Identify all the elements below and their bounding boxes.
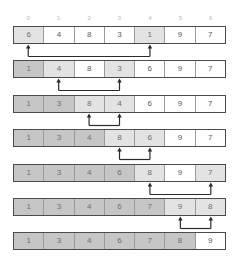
- array-cell-4[interactable]: 7: [135, 233, 165, 249]
- array-row: 1346897: [13, 164, 226, 182]
- swap-arrows: [13, 182, 226, 198]
- array-cell-1[interactable]: 3: [44, 165, 74, 181]
- sort-step-6: 1346798: [13, 198, 226, 216]
- sort-step-3: 1384697: [13, 95, 226, 113]
- array-cell-1[interactable]: 4: [44, 27, 74, 43]
- array-cell-4[interactable]: 6: [135, 61, 165, 77]
- array-cell-4[interactable]: 1: [135, 27, 165, 43]
- array-cell-3[interactable]: 4: [105, 96, 135, 112]
- array-cell-0[interactable]: 1: [14, 199, 44, 215]
- array-cell-5[interactable]: 9: [165, 61, 195, 77]
- array-cell-4[interactable]: 8: [135, 165, 165, 181]
- array-cell-3[interactable]: 3: [105, 27, 135, 43]
- array-cell-5[interactable]: 9: [165, 165, 195, 181]
- sort-step-4: 1348697: [13, 129, 226, 147]
- array-cell-0[interactable]: 1: [14, 165, 44, 181]
- array-row: 1348697: [13, 129, 226, 147]
- array-cell-2[interactable]: 4: [75, 165, 105, 181]
- array-row: 1483697: [13, 60, 226, 78]
- array-cell-5[interactable]: 9: [165, 96, 195, 112]
- swap-arrows: [13, 44, 226, 60]
- index-label-4: 4: [135, 13, 165, 23]
- array-cell-5[interactable]: 8: [165, 233, 195, 249]
- array-cell-3[interactable]: 6: [105, 165, 135, 181]
- index-label-5: 5: [165, 13, 195, 23]
- sort-step-2: 1483697: [13, 60, 226, 78]
- array-cell-4[interactable]: 6: [135, 96, 165, 112]
- array-cell-1[interactable]: 3: [44, 233, 74, 249]
- array-row: 1384697: [13, 95, 226, 113]
- array-cell-0[interactable]: 1: [14, 61, 44, 77]
- array-cell-6[interactable]: 8: [196, 199, 225, 215]
- array-row: 1346789: [13, 232, 226, 250]
- selection-sort-diagram: 0123456 64831971483697138469713486971346…: [0, 0, 238, 270]
- array-cell-1[interactable]: 3: [44, 199, 74, 215]
- array-cell-6[interactable]: 7: [196, 61, 225, 77]
- array-cell-4[interactable]: 7: [135, 199, 165, 215]
- swap-arrows: [13, 147, 226, 163]
- array-cell-0[interactable]: 1: [14, 96, 44, 112]
- sort-step-7: 1346789: [13, 232, 226, 250]
- index-label-2: 2: [74, 13, 104, 23]
- index-label-3: 3: [104, 13, 134, 23]
- array-cell-1[interactable]: 4: [44, 61, 74, 77]
- array-cell-6[interactable]: 7: [196, 130, 225, 146]
- array-cell-6[interactable]: 7: [196, 96, 225, 112]
- array-row: 1346798: [13, 198, 226, 216]
- array-cell-2[interactable]: 8: [75, 27, 105, 43]
- array-cell-2[interactable]: 4: [75, 130, 105, 146]
- sort-step-1: 6483197: [13, 26, 226, 44]
- array-cell-6[interactable]: 9: [196, 233, 225, 249]
- array-cell-4[interactable]: 6: [135, 130, 165, 146]
- index-label-0: 0: [13, 13, 43, 23]
- array-cell-6[interactable]: 7: [196, 27, 225, 43]
- array-cell-1[interactable]: 3: [44, 130, 74, 146]
- index-header-row: 0123456: [13, 13, 226, 23]
- array-cell-5[interactable]: 9: [165, 27, 195, 43]
- array-row: 6483197: [13, 26, 226, 44]
- array-cell-3[interactable]: 6: [105, 199, 135, 215]
- array-cell-5[interactable]: 9: [165, 130, 195, 146]
- array-cell-2[interactable]: 4: [75, 233, 105, 249]
- array-cell-0[interactable]: 1: [14, 233, 44, 249]
- swap-arrows: [13, 78, 226, 94]
- array-cell-3[interactable]: 3: [105, 61, 135, 77]
- index-label-6: 6: [196, 13, 226, 23]
- array-cell-3[interactable]: 6: [105, 233, 135, 249]
- array-cell-2[interactable]: 4: [75, 199, 105, 215]
- array-cell-2[interactable]: 8: [75, 61, 105, 77]
- swap-arrows: [13, 216, 226, 232]
- array-cell-1[interactable]: 3: [44, 96, 74, 112]
- array-cell-0[interactable]: 1: [14, 130, 44, 146]
- index-label-1: 1: [43, 13, 73, 23]
- array-cell-0[interactable]: 6: [14, 27, 44, 43]
- sort-step-5: 1346897: [13, 164, 226, 182]
- array-cell-2[interactable]: 8: [75, 96, 105, 112]
- swap-arrows: [13, 113, 226, 129]
- array-cell-3[interactable]: 8: [105, 130, 135, 146]
- array-cell-6[interactable]: 7: [196, 165, 225, 181]
- array-cell-5[interactable]: 9: [165, 199, 195, 215]
